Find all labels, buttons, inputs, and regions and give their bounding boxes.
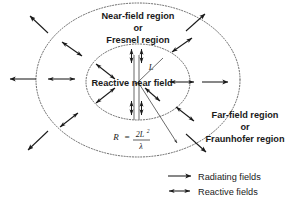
- near-field-region-label-line2: or: [133, 23, 143, 33]
- legend-label-radiating: Radiating fields: [198, 172, 261, 182]
- radiating-arrow-upper-left-outer: [30, 16, 48, 33]
- reactive-arrow-lower-left-diag: [96, 88, 115, 103]
- formula-lhs: R: [112, 132, 119, 142]
- legend: Radiating fields Reactive fields: [168, 172, 261, 197]
- formula-denominator: λ: [138, 142, 143, 151]
- reactive-arrow-nf-lower-right: [176, 107, 194, 121]
- radiating-arrow-lower-right-outer: [186, 134, 206, 152]
- near-field-region-label-line1: Near-field region: [101, 11, 174, 21]
- formula-numerator: 2L: [136, 130, 145, 139]
- formula-R: R = 2L 2 λ: [112, 128, 150, 151]
- radiating-arrow-lower-left-outer: [28, 131, 48, 150]
- near-field-region-label-line3: Fresnel region: [106, 35, 170, 45]
- legend-label-reactive: Reactive fields: [198, 187, 258, 197]
- reactive-arrow-nf-upper-left: [62, 42, 82, 56]
- far-field-region-label-line1: Far-field region: [212, 110, 279, 120]
- figure-canvas: Near-field region or Fresnel region Reac…: [0, 0, 302, 205]
- reactive-arrow-lower-right-diag: [145, 88, 160, 101]
- formula-equals: =: [124, 132, 130, 142]
- antenna-field-regions-diagram: Near-field region or Fresnel region Reac…: [0, 0, 302, 205]
- reactive-arrow-nf-lower-left: [60, 113, 78, 127]
- reactive-arrow-nf-upper-right: [172, 38, 192, 52]
- reactive-arrow-upper-left-diag: [96, 64, 115, 79]
- far-field-region-label-line3: Fraunhofer region: [205, 134, 285, 144]
- far-field-region-label-line2: or: [240, 122, 250, 132]
- formula-numerator-exponent: 2: [147, 128, 150, 134]
- antenna-length-symbol-L: L: [148, 62, 154, 72]
- reactive-near-field-label: Reactive near field: [91, 78, 172, 88]
